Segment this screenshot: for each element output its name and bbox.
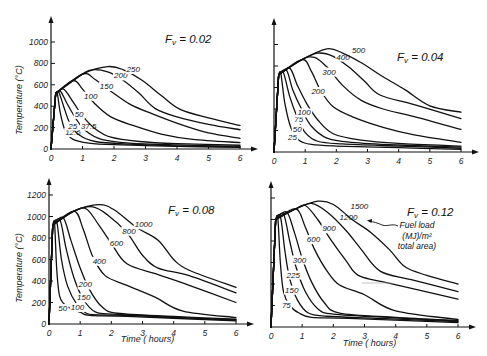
panel-title: Fv = 0.08 bbox=[168, 204, 215, 218]
x-tick-label: 0 bbox=[49, 153, 54, 163]
x-tick-label: 2 bbox=[108, 328, 114, 338]
curve-label: 50 bbox=[293, 125, 302, 134]
curve-label: 600 bbox=[307, 235, 321, 244]
curve-label: 250 bbox=[126, 65, 141, 74]
y-tick-label: 800 bbox=[34, 58, 48, 68]
curve-label: 100 bbox=[84, 92, 98, 101]
curve-label: 150 bbox=[285, 286, 299, 295]
x-tick-label: 5 bbox=[427, 156, 432, 166]
curve-label: 300 bbox=[293, 256, 307, 265]
curve-label: 400 bbox=[93, 257, 107, 266]
x-tick-label: 6 bbox=[459, 156, 464, 166]
x-tick-label: 2 bbox=[330, 331, 336, 341]
annotation-arrow-icon bbox=[367, 219, 372, 223]
y-tick-label: 0 bbox=[43, 144, 48, 154]
y-tick-label: 1000 bbox=[27, 212, 46, 222]
y-axis-arrow-icon bbox=[272, 18, 277, 25]
curve-label: 25 bbox=[287, 133, 297, 142]
annotation-text: total area) bbox=[398, 241, 436, 251]
curve-label: 500 bbox=[352, 46, 366, 55]
x-tick-label: 6 bbox=[238, 153, 243, 163]
y-axis-arrow-icon bbox=[269, 181, 274, 188]
y-tick-label: 0 bbox=[41, 319, 46, 329]
x-axis-arrow-icon bbox=[469, 325, 476, 330]
curve-fuel-load-500 bbox=[274, 49, 461, 152]
curve-label: 225 bbox=[286, 271, 301, 280]
curve-label: 50 bbox=[58, 304, 67, 313]
x-tick-label: 5 bbox=[424, 331, 429, 341]
x-tick-label: 5 bbox=[202, 328, 207, 338]
x-tick-label: 1 bbox=[303, 156, 308, 166]
x-tick-label: 6 bbox=[234, 328, 239, 338]
x-axis-arrow-icon bbox=[247, 322, 254, 327]
x-tick-label: 4 bbox=[175, 153, 180, 163]
x-axis-label: Time ( hours) bbox=[121, 334, 174, 344]
curve-label: 200 bbox=[78, 280, 93, 289]
y-tick-label: 800 bbox=[32, 233, 46, 243]
x-axis-arrow-icon bbox=[251, 147, 258, 152]
curve-label: 25 bbox=[67, 122, 77, 131]
y-axis-label: Temperature (°C) bbox=[14, 65, 24, 134]
curve-label: 50 bbox=[75, 110, 84, 119]
curve-label: 100 bbox=[297, 108, 311, 117]
curve-label: 100 bbox=[71, 303, 85, 312]
y-tick-label: 1200 bbox=[27, 190, 46, 200]
y-axis-arrow-icon bbox=[49, 16, 54, 23]
curve-fuel-load-200 bbox=[274, 60, 461, 152]
x-axis-arrow-icon bbox=[472, 150, 479, 155]
panel-title: Fv = 0.02 bbox=[165, 33, 212, 47]
curve-label: 200 bbox=[310, 87, 325, 96]
x-tick-label: 0 bbox=[272, 156, 277, 166]
x-tick-label: 2 bbox=[333, 156, 339, 166]
annotation-text: (MJ)/m² bbox=[402, 231, 432, 241]
y-axis-arrow-icon bbox=[47, 178, 52, 185]
y-tick-label: 600 bbox=[34, 80, 48, 90]
x-tick-label: 6 bbox=[456, 331, 461, 341]
y-tick-label: 200 bbox=[31, 298, 46, 308]
x-axis-label: Time ( hours) bbox=[343, 338, 396, 348]
temperature-time-curves-figure: 012345602004006008001000Fv = 0.02Tempera… bbox=[0, 0, 487, 356]
curve-label: 600 bbox=[110, 239, 124, 248]
x-tick-label: 4 bbox=[396, 156, 401, 166]
x-tick-label: 3 bbox=[143, 153, 148, 163]
y-axis-label: Temperature (°C) bbox=[14, 233, 24, 302]
curve-label: 900 bbox=[322, 224, 336, 233]
panel-title: Fv = 0.04 bbox=[397, 51, 444, 65]
panel-title: Fv = 0.12 bbox=[407, 206, 454, 220]
y-tick-label: 200 bbox=[33, 123, 48, 133]
x-tick-label: 1 bbox=[80, 153, 85, 163]
x-tick-label: 0 bbox=[47, 328, 52, 338]
curve-fuel-load-400 bbox=[274, 53, 461, 152]
curve-label: 150 bbox=[77, 293, 91, 302]
curve-label: 300 bbox=[322, 68, 336, 77]
curve-label: 150 bbox=[100, 82, 114, 91]
curve-label: 1000 bbox=[135, 220, 153, 229]
x-tick-label: 2 bbox=[111, 153, 117, 163]
x-tick-label: 0 bbox=[269, 331, 274, 341]
y-tick-label: 600 bbox=[32, 255, 46, 265]
curve-label: 75 bbox=[282, 301, 291, 310]
y-tick-label: 400 bbox=[34, 101, 48, 111]
y-tick-label: 1000 bbox=[29, 37, 48, 47]
y-tick-label: 400 bbox=[32, 276, 46, 286]
annotation-text: Fuel load bbox=[400, 220, 435, 230]
x-tick-label: 5 bbox=[206, 153, 211, 163]
x-tick-label: 3 bbox=[365, 156, 370, 166]
x-tick-label: 1 bbox=[78, 328, 83, 338]
curve-label: 1500 bbox=[350, 202, 368, 211]
annotation-leader-line bbox=[369, 221, 398, 226]
x-tick-label: 1 bbox=[300, 331, 305, 341]
